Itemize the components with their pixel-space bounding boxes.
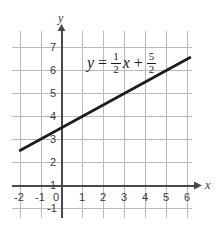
y-axis-label: y <box>58 12 63 24</box>
y-axis <box>58 24 66 218</box>
graph-figure: -2 -1 0 1 2 3 4 5 6 7 6 5 4 3 2 1 -1 y x… <box>0 0 218 235</box>
coefficient-denominator: 2 <box>111 64 121 76</box>
y-axis-arrow <box>58 24 66 31</box>
equation-plus: + <box>131 55 146 71</box>
y-tick-label-1: 1 <box>50 180 56 191</box>
x-tick-label-5: 5 <box>163 192 169 203</box>
equation-lhs: y <box>86 55 95 71</box>
x-tick-label-4: 4 <box>142 192 148 203</box>
x-tick-label-2: 2 <box>100 192 106 203</box>
constant-denominator: 2 <box>147 64 157 76</box>
x-tick-label-1: 1 <box>79 192 85 203</box>
y-tick-label--1: -1 <box>47 203 57 214</box>
x-tick-label--1: -1 <box>35 192 45 203</box>
y-tick-label-4: 4 <box>50 111 56 122</box>
x-axis <box>12 182 202 190</box>
y-tick-label-2: 2 <box>50 157 56 168</box>
x-tick-label-3: 3 <box>121 192 127 203</box>
x-tick-label--2: -2 <box>14 192 24 203</box>
constant-numerator: 5 <box>147 51 157 63</box>
y-tick-label-7: 7 <box>50 42 56 53</box>
y-tick-label-5: 5 <box>50 88 56 99</box>
equation-annotation: y = 1 2 x + 5 2 <box>86 51 157 75</box>
x-axis-label: x <box>205 179 210 191</box>
coefficient-numerator: 1 <box>111 51 121 63</box>
equation-equals: = <box>95 55 110 71</box>
equation-variable: x <box>122 55 131 71</box>
x-axis-arrow <box>194 182 202 190</box>
constant-fraction: 5 2 <box>147 51 157 75</box>
y-tick-label-6: 6 <box>50 65 56 76</box>
y-tick-label-3: 3 <box>50 134 56 145</box>
x-tick-label-6: 6 <box>184 192 190 203</box>
coefficient-fraction: 1 2 <box>111 51 121 75</box>
